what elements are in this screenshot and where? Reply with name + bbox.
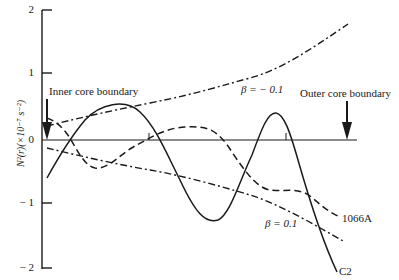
series-1066a — [47, 118, 340, 217]
outer-core-label: Outer core boundary — [300, 88, 391, 99]
series-c2 — [47, 104, 337, 272]
y-tick-label: − 1 — [14, 197, 34, 208]
y-tick-label: 2 — [18, 4, 34, 15]
y-tick-label: 1 — [18, 67, 34, 78]
1066a-label: 1066A — [342, 213, 372, 224]
beta-neg-label: β = − 0.1 — [241, 84, 283, 95]
c2-label: C2 — [339, 266, 352, 277]
y-tick-label: − 2 — [14, 262, 34, 273]
inner-core-label: Inner core boundary — [49, 86, 138, 97]
outer-core-arrow-icon — [342, 101, 352, 140]
series-beta-neg — [47, 24, 348, 126]
series-beta-pos — [47, 148, 345, 242]
beta-pos-label: β = 0.1 — [265, 218, 297, 229]
y-axis-label: N²(r)(×10⁻⁷ s⁻²) — [15, 84, 26, 184]
chart-canvas — [0, 0, 399, 280]
